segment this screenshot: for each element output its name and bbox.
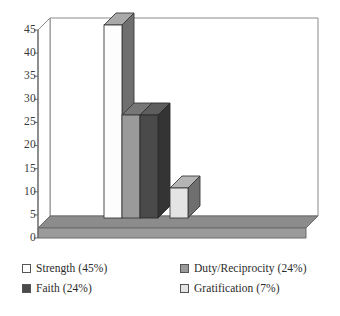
legend-item-faith[interactable]: Faith (24%) xyxy=(22,278,107,298)
legend-label-duty-reciprocity: Duty/Reciprocity (24%) xyxy=(194,262,307,274)
y-tick-10: 10 xyxy=(10,186,36,198)
y-tick-15: 15 xyxy=(10,163,36,175)
bar-faith-side xyxy=(158,103,170,218)
y-tick-45: 45 xyxy=(10,24,36,36)
legend-column-right: Duty/Reciprocity (24%) Gratification (7%… xyxy=(180,258,307,298)
y-tick-40: 40 xyxy=(10,47,36,59)
legend-swatch-strength xyxy=(22,264,31,273)
chart-canvas xyxy=(0,0,340,258)
bar-duty-face xyxy=(122,115,140,218)
y-tick-20: 20 xyxy=(10,139,36,151)
legend-item-gratification[interactable]: Gratification (7%) xyxy=(180,278,307,298)
left-depth-wall xyxy=(38,18,50,228)
y-tick-0: 0 xyxy=(10,232,36,244)
y-axis-labels: 45 40 35 30 25 20 15 10 5 0 xyxy=(8,0,36,258)
bar-chart: 45 40 35 30 25 20 15 10 5 0 Strength (45… xyxy=(0,0,340,316)
plot-area: 45 40 35 30 25 20 15 10 5 0 xyxy=(0,0,340,258)
y-tick-25: 25 xyxy=(10,116,36,128)
floor-front-edge xyxy=(38,228,306,238)
bar-gratification-face xyxy=(170,188,188,218)
y-tick-30: 30 xyxy=(10,93,36,105)
legend-label-gratification: Gratification (7%) xyxy=(194,282,280,294)
bar-strength-face xyxy=(104,25,122,218)
legend-column-left: Strength (45%) Faith (24%) xyxy=(22,258,107,298)
bar-faith-face xyxy=(140,115,158,218)
legend-swatch-faith xyxy=(22,284,31,293)
legend-swatch-duty-reciprocity xyxy=(180,264,189,273)
chart-legend: Strength (45%) Faith (24%) Duty/Reciproc… xyxy=(0,258,340,316)
legend-label-faith: Faith (24%) xyxy=(36,282,92,294)
legend-item-strength[interactable]: Strength (45%) xyxy=(22,258,107,278)
legend-swatch-gratification xyxy=(180,284,189,293)
y-tick-35: 35 xyxy=(10,70,36,82)
bar-faith xyxy=(140,103,170,218)
legend-label-strength: Strength (45%) xyxy=(36,262,107,274)
y-tick-5: 5 xyxy=(10,209,36,221)
legend-item-duty-reciprocity[interactable]: Duty/Reciprocity (24%) xyxy=(180,258,307,278)
